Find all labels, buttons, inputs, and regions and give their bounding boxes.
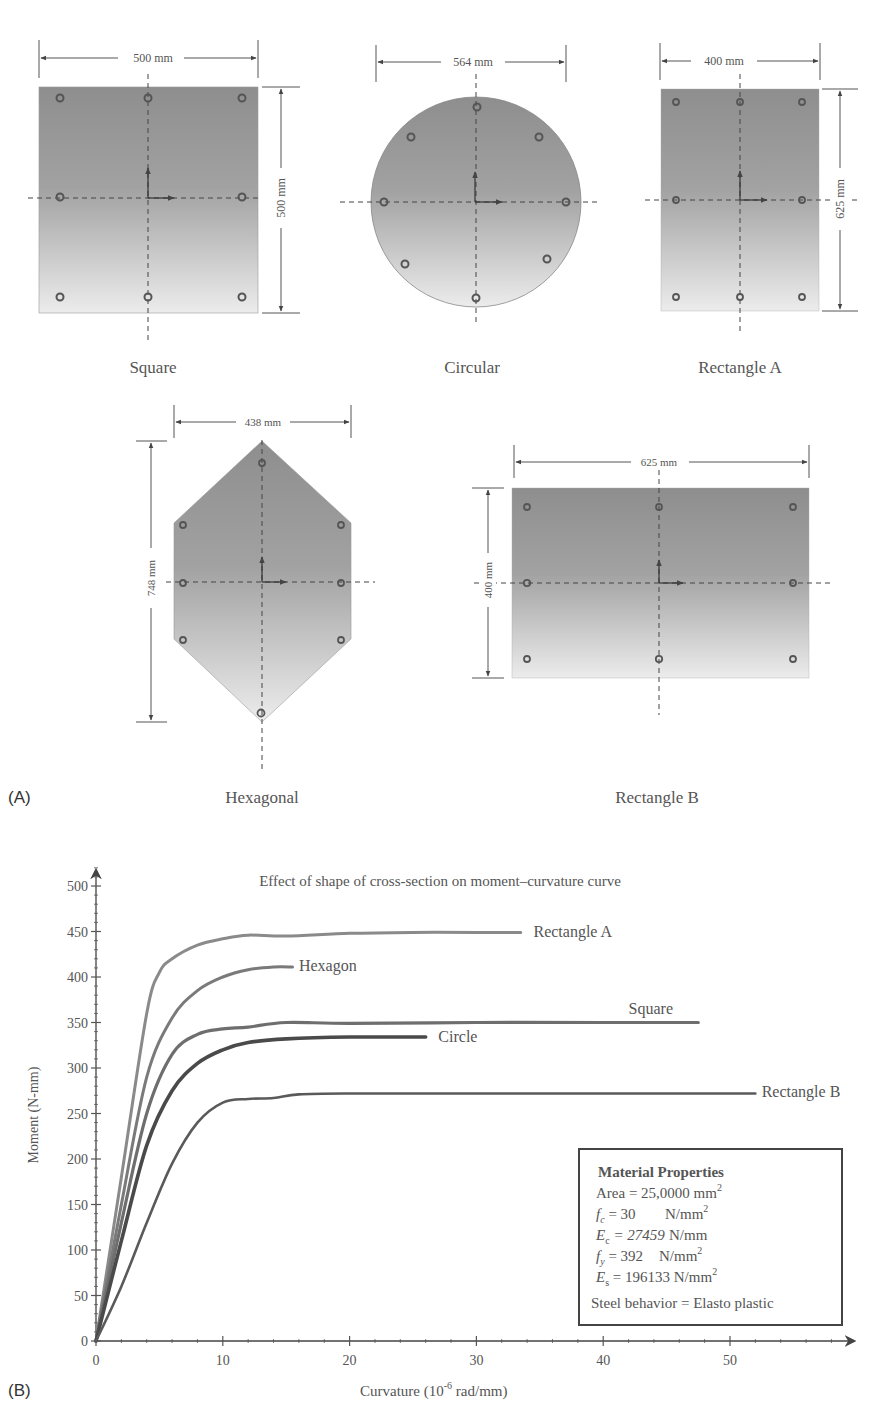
circular-width-dim: 564 mm [453, 55, 493, 69]
material-steel: Steel behavior = Elasto plastic [591, 1295, 774, 1311]
rectangle-a-section: 400 mm 625 mm Rectangle A [645, 43, 860, 377]
square-section: 500 mm 500 mm Square [28, 40, 300, 377]
rectangle-a-width-dim: 400 mm [704, 54, 744, 68]
x-axis-label: Curvature (10-6 rad/mm) [360, 1380, 507, 1400]
chart-title: Effect of shape of cross-section on mome… [259, 873, 621, 889]
x-tick-label: 20 [343, 1353, 357, 1368]
y-tick-label: 450 [67, 925, 88, 940]
y-tick-label: 500 [67, 879, 88, 894]
circular-section: 564 mm Circular [340, 45, 600, 377]
square-height-dim: 500 mm [274, 178, 288, 218]
material-title: Material Properties [598, 1164, 724, 1180]
rectangle-b-section: 625 mm 400 mm Rectangle B [472, 445, 830, 807]
y-tick-label: 50 [74, 1289, 88, 1304]
curve-label: Rectangle B [762, 1083, 841, 1101]
curve-label: Square [629, 1000, 673, 1018]
y-tick-label: 350 [67, 1016, 88, 1031]
x-tick-label: 30 [469, 1353, 483, 1368]
square-caption: Square [129, 358, 176, 377]
curve-label: Hexagon [299, 957, 357, 975]
panel-b-label: (B) [8, 1381, 31, 1400]
hexagonal-width-dim: 438 mm [245, 416, 282, 428]
moment-curvature-chart: Effect of shape of cross-section on mome… [8, 868, 854, 1400]
y-tick-label: 150 [67, 1198, 88, 1213]
rectangle-a-caption: Rectangle A [698, 358, 782, 377]
panel-a: 500 mm 500 mm Square 564 mm [8, 40, 860, 807]
curve-label: Circle [438, 1028, 477, 1045]
material-es: Es = 196133 N/mm2 [595, 1266, 717, 1288]
circular-caption: Circular [444, 358, 500, 377]
x-tick-label: 10 [216, 1353, 230, 1368]
panel-a-label: (A) [8, 788, 31, 807]
y-tick-label: 100 [67, 1243, 88, 1258]
rectangle-a-height-dim: 625 mm [833, 179, 847, 219]
y-tick-label: 200 [67, 1152, 88, 1167]
y-tick-label: 250 [67, 1107, 88, 1122]
x-tick-label: 50 [723, 1353, 737, 1368]
rectangle-b-width-dim: 625 mm [641, 456, 678, 468]
figure: 500 mm 500 mm Square 564 mm [0, 0, 879, 1418]
y-tick-label: 0 [81, 1334, 88, 1349]
y-tick-label: 400 [67, 970, 88, 985]
rectangle-b-height-dim: 400 mm [482, 561, 494, 598]
x-tick-label: 0 [93, 1353, 100, 1368]
x-tick-label: 40 [596, 1353, 610, 1368]
hexagonal-section: 438 mm 748 mm Hexagonal [136, 405, 375, 807]
material-properties-box: Material Properties Area = 25,0000 mm2 f… [579, 1149, 842, 1325]
rectangle-b-caption: Rectangle B [615, 788, 699, 807]
square-width-dim: 500 mm [133, 51, 173, 65]
y-axis-label: Moment (N-mm) [26, 1066, 42, 1163]
hexagonal-caption: Hexagonal [225, 788, 299, 807]
curve-labels: Rectangle AHexagonSquareCircleRectangle … [299, 923, 840, 1101]
curve-label: Rectangle A [533, 923, 612, 941]
y-tick-label: 300 [67, 1061, 88, 1076]
hexagonal-height-dim: 748 mm [145, 559, 157, 596]
material-area: Area = 25,0000 mm2 [596, 1182, 722, 1201]
curve-rectangle-a [96, 932, 521, 1341]
